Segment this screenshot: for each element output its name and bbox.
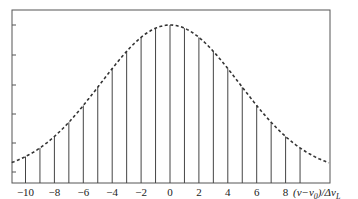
x-tick-label: 4	[225, 186, 231, 198]
x-tick-label: 6	[254, 186, 260, 198]
x-tick-label: −2	[135, 186, 147, 198]
mode-lines	[26, 25, 301, 183]
x-tick-label: −4	[106, 186, 118, 198]
x-tick-label: 0	[167, 186, 173, 198]
gaussian-mode-chart: −10−8−6−4−202468 (ν−ν0)/ΔνL	[0, 0, 358, 199]
x-axis-ticks: −10−8−6−4−202468	[17, 186, 289, 198]
x-tick-label: −6	[77, 186, 89, 198]
x-tick-label: 8	[283, 186, 289, 198]
x-tick-label: 2	[196, 186, 202, 198]
x-tick-label: −8	[49, 186, 61, 198]
plot-frame	[12, 10, 330, 183]
x-tick-label: −10	[17, 186, 35, 198]
x-axis-label: (ν−ν0)/ΔνL	[293, 186, 341, 199]
y-axis-ticks	[12, 25, 16, 172]
